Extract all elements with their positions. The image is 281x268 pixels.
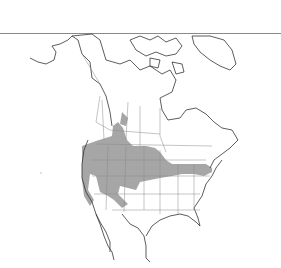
north-america-range-map [0, 0, 281, 268]
island-speck [40, 172, 42, 174]
